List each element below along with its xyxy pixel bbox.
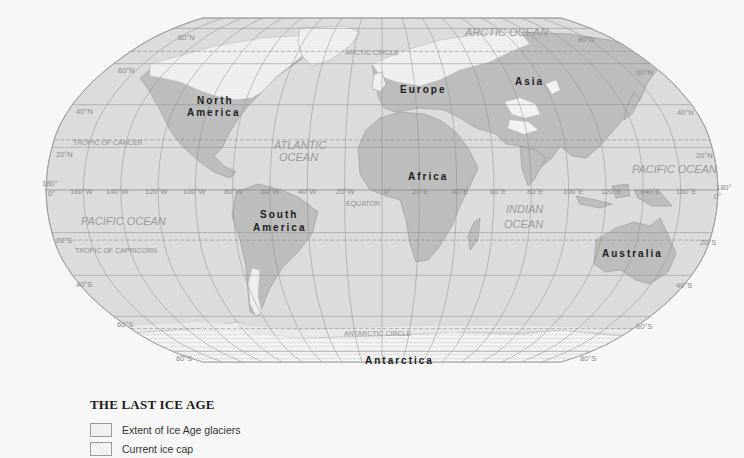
glacier-swatch-icon xyxy=(90,423,112,437)
lat-label-60n-left: 60°N xyxy=(118,66,135,75)
lat-label-60n-right: 60°N xyxy=(636,68,653,77)
tropic-of-cancer-label: TROPIC OF CANCER xyxy=(73,139,143,146)
lon-label: 20°W xyxy=(336,187,355,196)
lat-label-60s-right: 60°S xyxy=(636,322,652,331)
lon-label: 100°E xyxy=(563,187,584,196)
legend: THE LAST ICE AGE Extent of Ice Age glaci… xyxy=(90,397,240,458)
legend-label: Extent of Ice Age glaciers xyxy=(122,424,240,436)
lat-label-20s-right: 20°S xyxy=(700,238,716,247)
lat-label-40s-right: 40°S xyxy=(676,281,692,290)
lat-label-80n-right: 80°N xyxy=(578,35,595,44)
lat-label-20s-left: 20°S xyxy=(56,236,72,245)
ocean-label-atlantic-line2: OCEAN xyxy=(279,151,318,163)
continent-label-europe: Europe xyxy=(400,84,446,95)
lon-label: 80°E xyxy=(527,187,543,196)
dateline-label-right: 180° xyxy=(716,183,732,192)
ocean-label-indian-line1: INDIAN xyxy=(506,203,543,215)
lat-label-80n-left: 80°N xyxy=(178,33,195,42)
continent-label-asia: Asia xyxy=(515,76,544,87)
lat-label-80s-right: 80°S xyxy=(580,354,596,363)
dateline-label-left: 180° xyxy=(42,179,58,188)
lon-label: 40°E xyxy=(452,187,468,196)
continent-label-australia: Australia xyxy=(602,248,663,259)
ocean-label-arctic: ARCTIC OCEAN xyxy=(464,26,548,38)
lat-label-40n-right: 40°N xyxy=(677,108,694,117)
continent-label-antarctica: Antarctica xyxy=(365,355,434,366)
continent-label-africa: Africa xyxy=(408,171,448,182)
lon-label: 120°E xyxy=(601,187,622,196)
lon-label: 100°W xyxy=(183,187,207,196)
lon-label: 160°E xyxy=(676,187,697,196)
lat-label-60s-left: 60°S xyxy=(117,320,133,329)
continent-label-south-america-line1: South xyxy=(260,209,298,220)
lon-label: 140°W xyxy=(106,187,130,196)
continent-label-north-america-line1: North xyxy=(197,95,234,106)
lon-label: 60°E xyxy=(490,187,506,196)
world-map: 80°N 80°N 60°N 60°N 40°N 40°N 20°N 20°N … xyxy=(0,0,744,390)
lat-label-20n-right: 20°N xyxy=(696,151,713,160)
ice-cap-swatch-icon xyxy=(90,442,112,456)
ocean-label-pacific-east: PACIFIC OCEAN xyxy=(632,163,717,175)
ocean-label-atlantic-line1: ATLANTIC xyxy=(273,139,326,151)
continent-label-south-america-line2: America xyxy=(253,222,306,233)
legend-title: THE LAST ICE AGE xyxy=(90,397,240,413)
lat-label-40n-left: 40°N xyxy=(76,107,93,116)
lon-label: 20°E xyxy=(412,187,428,196)
ocean-label-indian-line2: OCEAN xyxy=(504,218,543,230)
legend-label: Current ice cap xyxy=(122,443,193,455)
lat-label-equator-left: 0° xyxy=(48,189,55,198)
antarctic-circle-label: ANTARCTIC CIRCLE xyxy=(344,330,411,337)
lat-label-40s-left: 40°S xyxy=(76,280,92,289)
lon-label: 60°W xyxy=(261,187,280,196)
lat-label-20n-left: 20°N xyxy=(56,150,73,159)
lon-label: 0° xyxy=(384,187,391,196)
longitude-labels: 160°W 140°W 120°W 100°W 80°W 60°W 40°W 2… xyxy=(70,187,697,196)
lon-label: 80°W xyxy=(224,187,243,196)
lat-label-80s-left: 80°S xyxy=(176,354,192,363)
legend-item-glaciers: Extent of Ice Age glaciers xyxy=(90,420,240,439)
lat-label-equator-right: 0° xyxy=(714,192,721,201)
legend-item-ice-cap: Current ice cap xyxy=(90,439,240,458)
lon-label: 140°E xyxy=(640,187,661,196)
lon-label: 160°W xyxy=(70,187,94,196)
lon-label: 40°W xyxy=(298,187,317,196)
arctic-circle-label: ARCTIC CIRCLE xyxy=(345,49,399,56)
tropic-of-capricorn-label: TROPIC OF CAPRICORN xyxy=(75,247,157,254)
equator-label: EQUATOR xyxy=(346,200,380,208)
ocean-label-pacific-west: PACIFIC OCEAN xyxy=(81,215,166,227)
lon-label: 120°W xyxy=(145,187,169,196)
continent-label-north-america-line2: America xyxy=(187,107,240,118)
